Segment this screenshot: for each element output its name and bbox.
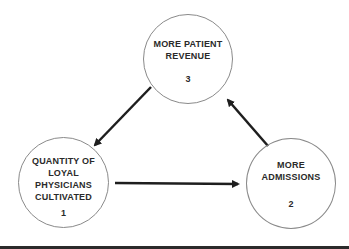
- node-label: MORE PATIENT REVENUE: [153, 38, 222, 62]
- node-number: 2: [288, 199, 293, 209]
- node-more-admissions: MORE ADMISSIONS 2: [246, 138, 336, 229]
- cycle-diagram: MORE PATIENT REVENUE 3 QUANTITY OF LOYAL…: [0, 0, 349, 249]
- node-quantity-loyal-physicians: QUANTITY OF LOYAL PHYSICIANS CULTIVATED …: [18, 137, 109, 228]
- node-number: 1: [61, 208, 66, 218]
- node-more-patient-revenue: MORE PATIENT REVENUE 3: [143, 14, 233, 104]
- arrow-1-to-2: [115, 183, 238, 184]
- node-label: QUANTITY OF LOYAL PHYSICIANS CULTIVATED: [19, 155, 108, 203]
- arrow-2-to-3: [228, 100, 268, 146]
- node-number: 3: [185, 74, 190, 84]
- node-label: MORE ADMISSIONS: [261, 159, 320, 183]
- arrow-3-to-1: [95, 87, 151, 145]
